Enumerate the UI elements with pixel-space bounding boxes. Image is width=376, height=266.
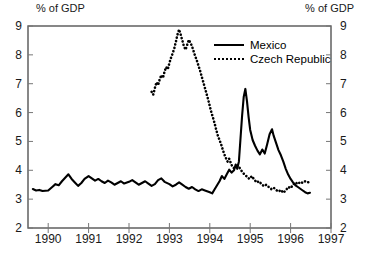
y-tick-right-7: 7 [340,77,347,91]
y-tick-right-9: 9 [340,19,347,33]
x-tick-1995: 1995 [237,232,264,246]
x-tick-1997: 1997 [318,232,345,246]
x-tick-1996: 1996 [277,232,304,246]
x-tick-1991: 1991 [75,232,102,246]
legend-label-czech-republic: Czech Republic [250,52,331,66]
y-tick-left-4: 4 [15,163,22,177]
y-tick-left-6: 6 [15,106,22,120]
y-tick-right-8: 8 [340,48,347,62]
legend-item-mexico: Mexico [214,38,331,52]
x-tick-1994: 1994 [196,232,223,246]
y-tick-right-6: 6 [340,106,347,120]
y-tick-left-2: 2 [15,221,22,235]
legend-line-dotted-icon [214,54,244,64]
y-tick-left-7: 7 [15,77,22,91]
y-tick-left-9: 9 [15,19,22,33]
legend-label-mexico: Mexico [250,38,286,52]
y-tick-right-3: 3 [340,192,347,206]
y-tick-left-3: 3 [15,192,22,206]
legend-line-solid-icon [214,40,244,50]
y-tick-left-5: 5 [15,134,22,148]
x-tick-1990: 1990 [35,232,62,246]
y-tick-left-8: 8 [15,48,22,62]
y-tick-right-4: 4 [340,163,347,177]
legend-item-czech-republic: Czech Republic [214,52,331,66]
y-tick-right-5: 5 [340,134,347,148]
chart-legend: Mexico Czech Republic [214,38,331,66]
chart-container: % of GDP % of GDP 23456789 23456789 1990… [0,0,376,266]
x-tick-1992: 1992 [116,232,143,246]
x-tick-1993: 1993 [156,232,183,246]
